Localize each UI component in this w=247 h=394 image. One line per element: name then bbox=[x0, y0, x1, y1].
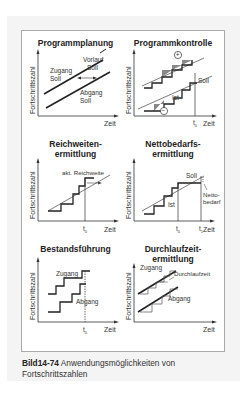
x-axis-label: Zeit bbox=[203, 226, 215, 233]
y-axis-label: Fortschrittszahl bbox=[29, 171, 36, 219]
figure-caption: Bild14-74 Anwendungsmöglichkeiten von Fo… bbox=[22, 358, 232, 379]
label-t0: t0 bbox=[83, 225, 88, 234]
label-t0: t0 bbox=[83, 326, 88, 334]
label-zugang-soll: Soll bbox=[50, 75, 61, 82]
label-nettobedarf-1: Netto- bbox=[203, 191, 220, 198]
x-axis-label: Zeit bbox=[104, 120, 116, 127]
y-axis-label: Fortschrittszahl bbox=[125, 272, 132, 320]
programmplanung-diagram: Fortschrittszahl Zeit Zugang Soll Vorlau… bbox=[28, 38, 123, 128]
y-axis-label: Fortschrittszahl bbox=[29, 66, 36, 114]
y-axis-label: Fortschrittszahl bbox=[29, 272, 36, 320]
nettobedarf-diagram: Fortschrittszahl Zeit Soll Ist Netto- be… bbox=[124, 139, 222, 234]
label-abgang: Abgang bbox=[80, 89, 103, 97]
programmkontrolle-diagram: Fortschrittszahl Zeit + − Soll Ist t0 bbox=[124, 38, 222, 128]
panel-durchlaufzeitermittlung: Durchlaufzeit- ermittlung Fortschrittsza… bbox=[124, 244, 222, 334]
x-axis-label: Zeit bbox=[104, 326, 116, 333]
label-zugang: Zugang bbox=[50, 67, 72, 75]
label-vorlauf: Vorlauf bbox=[83, 56, 103, 63]
label-abgang: Abgang bbox=[76, 298, 99, 306]
plus-label: + bbox=[176, 51, 180, 58]
label-durchlaufzeit: Durchlaufzeit bbox=[174, 270, 210, 277]
caption-number: Bild14-74 bbox=[22, 358, 59, 368]
label-soll: Soll bbox=[186, 172, 197, 179]
minus-label: − bbox=[162, 107, 166, 114]
panel-programmkontrolle: Programmkontrolle Fortschrittszahl Zeit … bbox=[124, 38, 222, 128]
x-axis-label: Zeit bbox=[104, 226, 116, 233]
reichweiten-diagram: Fortschrittszahl Zeit akt. Reichweite t0 bbox=[28, 139, 123, 234]
label-nettobedarf-2: bedarf bbox=[203, 198, 221, 205]
durchlaufzeit-diagram: Fortschrittszahl Zeit Zugang Durchlaufze… bbox=[124, 244, 222, 334]
panel-nettobedarfsermittlung: Nettobedarfs- ermittlung Fortschrittszah… bbox=[124, 139, 222, 234]
panel-programmplanung: Programmplanung Fortschrittszahl Zeit Zu… bbox=[28, 38, 123, 128]
label-zugang: Zugang bbox=[140, 264, 162, 272]
label-soll: Soll bbox=[198, 77, 209, 84]
x-axis-label: Zeit bbox=[203, 120, 215, 127]
label-ist: Ist bbox=[172, 94, 179, 101]
label-ist: Ist bbox=[168, 201, 175, 208]
label-vorlauf-soll: Soll bbox=[87, 64, 98, 71]
y-axis-label: Fortschrittszahl bbox=[125, 171, 132, 219]
label-t0: t0 bbox=[176, 225, 181, 234]
label-abgang-soll: Soll bbox=[80, 97, 91, 104]
x-axis-label: Zeit bbox=[203, 326, 215, 333]
label-akt-reichweite: akt. Reichweite bbox=[62, 169, 105, 176]
label-abgang: Abgang bbox=[168, 295, 191, 303]
label-t0: t0 bbox=[193, 119, 198, 128]
y-axis-label: Fortschrittszahl bbox=[125, 66, 132, 114]
label-zugang: Zugang bbox=[56, 270, 78, 278]
panel-reichweitenermittlung: Reichweiten- ermittlung Fortschrittszahl… bbox=[28, 139, 123, 234]
panel-bestandsfuehrung: Bestandsführung Fortschrittszahl Zeit Zu… bbox=[28, 244, 123, 334]
bestandsfuehrung-diagram: Fortschrittszahl Zeit Zugang Abgang t0 bbox=[28, 244, 123, 334]
